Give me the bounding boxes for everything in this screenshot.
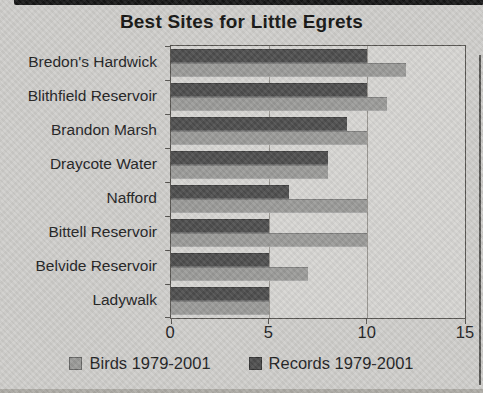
bar-records [171, 185, 289, 199]
bar-birds [171, 63, 406, 77]
value-axis-tick [268, 319, 269, 324]
category-axis-tick [165, 182, 171, 183]
chart-container: Best Sites for Little Egrets Bredon's Ha… [0, 0, 483, 393]
category-band [171, 148, 465, 182]
category-band [171, 114, 465, 148]
category-label: Belvide Reservoir [0, 249, 163, 283]
value-axis-tick-label: 15 [456, 323, 474, 342]
bar-records [171, 253, 269, 267]
category-label: Blithfield Reservoir [0, 79, 163, 113]
bar-birds [171, 97, 387, 111]
bar-birds [171, 131, 367, 145]
category-label: Ladywalk [0, 283, 163, 317]
bar-birds [171, 267, 308, 281]
category-axis-tick [165, 148, 171, 149]
category-label: Nafford [0, 181, 163, 215]
category-axis-tick [165, 317, 171, 318]
value-axis-tick-label: 0 [165, 323, 174, 342]
category-axis-tick [165, 114, 171, 115]
bar-records [171, 117, 347, 131]
category-band [171, 182, 465, 216]
category-label: Bredon's Hardwick [0, 45, 163, 79]
bar-records [171, 219, 269, 233]
category-axis-tick [165, 284, 171, 285]
legend-label: Records 1979-2001 [269, 354, 414, 373]
category-axis-tick [165, 46, 171, 47]
value-axis-labels: 051015 [170, 323, 465, 343]
bar-records [171, 83, 367, 97]
category-band [171, 46, 465, 80]
scan-artifact-right-edge [479, 55, 481, 385]
legend-label: Birds 1979-2001 [89, 354, 210, 373]
category-axis-tick [165, 250, 171, 251]
legend-swatch-birds [69, 357, 82, 370]
category-label: Draycote Water [0, 147, 163, 181]
value-axis-tick [465, 319, 466, 324]
value-axis-tick-label: 10 [357, 323, 375, 342]
category-axis-tick [165, 80, 171, 81]
bar-birds [171, 165, 328, 179]
category-band [171, 250, 465, 284]
category-axis-labels: Bredon's HardwickBlithfield ReservoirBra… [0, 45, 163, 317]
category-band [171, 284, 465, 318]
bar-birds [171, 233, 367, 247]
bar-records [171, 151, 328, 165]
value-axis-tick [171, 319, 172, 324]
scan-artifact-bottom-edge [0, 389, 483, 393]
bar-records [171, 49, 367, 63]
legend-item: Records 1979-2001 [249, 354, 414, 373]
chart-title: Best Sites for Little Egrets [0, 11, 483, 33]
category-band [171, 216, 465, 250]
value-axis-tick [366, 319, 367, 324]
bar-birds [171, 301, 269, 315]
category-band [171, 80, 465, 114]
category-axis-tick [165, 216, 171, 217]
legend: Birds 1979-2001Records 1979-2001 [0, 354, 483, 373]
category-label: Brandon Marsh [0, 113, 163, 147]
legend-item: Birds 1979-2001 [69, 354, 210, 373]
bar-records [171, 287, 269, 301]
category-label: Bittell Reservoir [0, 215, 163, 249]
plot-area [170, 45, 466, 319]
legend-swatch-records [249, 357, 262, 370]
bar-birds [171, 199, 367, 213]
scan-artifact-top-edge [14, 0, 483, 5]
value-axis-tick-label: 5 [264, 323, 273, 342]
